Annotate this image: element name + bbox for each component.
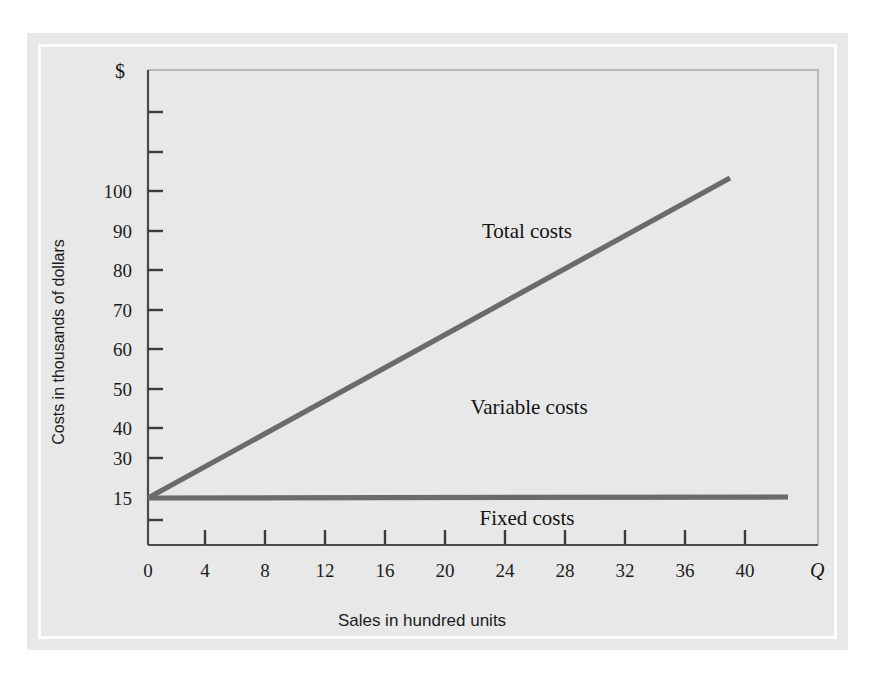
series-label-fixed-costs: Fixed costs (479, 506, 574, 531)
chart-graphics (27, 33, 848, 650)
x-tick-label-8: 8 (260, 561, 270, 580)
x-tick-label-28: 28 (556, 561, 575, 580)
y-tick-label-50: 50 (67, 380, 132, 399)
y-tick-label-40: 40 (67, 419, 132, 438)
y-tick-label-60: 60 (67, 340, 132, 359)
chart-surface: $ 100 90 80 70 60 50 40 30 15 0 4 8 12 1… (27, 33, 848, 650)
y-tick-label-70: 70 (67, 301, 132, 320)
x-tick-label-4: 4 (200, 561, 210, 580)
figure-panel: $ 100 90 80 70 60 50 40 30 15 0 4 8 12 1… (27, 33, 848, 650)
y-axis-ticks (148, 112, 163, 520)
series-line-fixed-costs (148, 497, 788, 498)
x-tick-label-16: 16 (376, 561, 395, 580)
x-tick-label-40: 40 (736, 561, 755, 580)
y-tick-label-90: 90 (67, 222, 132, 241)
annotation-variable-costs: Variable costs (470, 395, 587, 420)
page-root: $ 100 90 80 70 60 50 40 30 15 0 4 8 12 1… (0, 0, 889, 693)
x-tick-label-12: 12 (316, 561, 335, 580)
series-line-total-costs (148, 178, 730, 498)
y-tick-label-80: 80 (67, 261, 132, 280)
x-tick-label-24: 24 (496, 561, 515, 580)
x-axis-title: Sales in hundred units (27, 611, 817, 631)
series-label-total-costs: Total costs (482, 219, 572, 244)
y-tick-label-15: 15 (67, 489, 132, 508)
plot-area-border (148, 70, 818, 545)
y-axis-symbol: $ (115, 61, 125, 81)
x-tick-label-0: 0 (143, 561, 153, 580)
x-axis-symbol: Q (810, 560, 824, 580)
y-tick-label-100: 100 (67, 182, 132, 201)
x-axis-ticks (205, 530, 745, 545)
x-tick-label-36: 36 (676, 561, 695, 580)
x-tick-label-20: 20 (436, 561, 455, 580)
x-tick-label-32: 32 (616, 561, 635, 580)
y-axis-title: Costs in thousands of dollars (50, 192, 68, 492)
y-tick-label-30: 30 (67, 449, 132, 468)
